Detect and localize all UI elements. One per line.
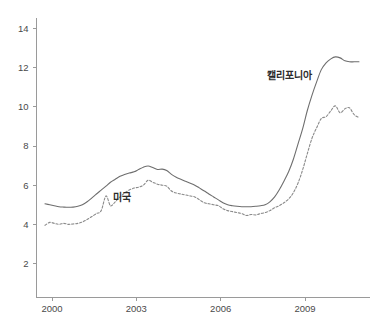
y-tick-label: 14: [18, 23, 29, 34]
x-axis-group: 2000200320062009: [37, 298, 371, 315]
y-axis-group: 2468101214: [18, 18, 37, 298]
y-tick-label: 4: [23, 219, 28, 230]
chart-canvas: 2468101214 2000200320062009 캘리포니아미국: [0, 0, 382, 333]
series-line-us: [45, 106, 359, 225]
series-annotation-label: 미국: [113, 191, 131, 203]
x-tick-label: 2003: [126, 303, 147, 314]
y-tick-label: 6: [23, 180, 28, 191]
series-annotation-label: 캘리포니아: [267, 69, 313, 81]
x-tick-label: 2000: [41, 303, 62, 314]
series-lines-group: [45, 57, 359, 225]
y-tick-label: 2: [23, 258, 28, 269]
unemployment-rate-line-chart: 2468101214 2000200320062009 캘리포니아미국: [0, 0, 382, 333]
x-axis-ticks: 2000200320062009: [41, 298, 315, 315]
y-axis-ticks: 2468101214: [18, 23, 37, 269]
y-tick-label: 8: [23, 140, 28, 151]
x-tick-label: 2006: [210, 303, 231, 314]
y-tick-label: 10: [18, 101, 29, 112]
y-tick-label: 12: [18, 62, 29, 73]
x-tick-label: 2009: [294, 303, 315, 314]
